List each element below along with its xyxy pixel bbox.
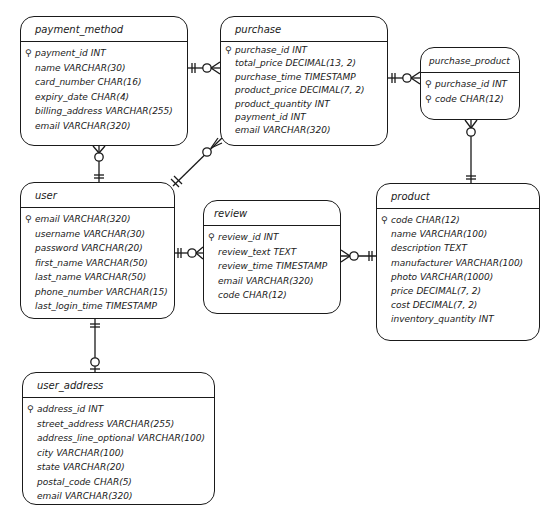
entity-review[interactable]: review ⚲review_idINT review_textTEXT rev… [203, 200, 341, 314]
rel-purchase-purchase-product [388, 72, 420, 84]
field-row: payment_idINT [225, 111, 383, 124]
field-row: ⚲payment_idINT [25, 46, 183, 61]
field-row: descriptionTEXT [381, 241, 535, 255]
entity-purchase-product[interactable]: purchase_product ⚲purchase_idINT ⚲codeCH… [420, 47, 520, 120]
field-row: manufacturerVARCHAR(100) [381, 256, 535, 270]
field-row: last_nameVARCHAR(50) [25, 270, 170, 285]
entity-title: payment_method [21, 17, 187, 42]
field-row: passwordVARCHAR(20) [25, 241, 170, 256]
field-row: last_login_timeTIMESTAMP [25, 299, 170, 314]
entity-title: purchase_product [421, 48, 519, 73]
field-row: card_numberCHAR(16) [25, 75, 183, 90]
field-row: costDECIMAL(7, 2) [381, 298, 535, 312]
field-row: phone_numberVARCHAR(15) [25, 285, 170, 300]
key-icon: ⚲ [425, 77, 432, 92]
rel-product-purchase-product [465, 120, 477, 183]
entity-purchase[interactable]: purchase ⚲purchase_idINT total_priceDECI… [220, 16, 388, 146]
field-row: ⚲emailVARCHAR(320) [25, 212, 170, 227]
field-row: billing_addressVARCHAR(255) [25, 104, 183, 119]
field-row: nameVARCHAR(30) [25, 61, 183, 76]
field-row: stateVARCHAR(20) [27, 460, 210, 475]
rel-user-review [175, 247, 203, 259]
field-row: street_addressVARCHAR(255) [27, 417, 210, 432]
entity-title: review [204, 201, 340, 226]
field-row: photoVARCHAR(1000) [381, 270, 535, 284]
key-icon: ⚲ [225, 44, 232, 57]
key-icon: ⚲ [425, 92, 432, 107]
field-row: review_textTEXT [208, 245, 336, 260]
rel-payment-method-purchase [188, 62, 220, 74]
field-row: nameVARCHAR(100) [381, 227, 535, 241]
field-row: ⚲purchase_idINT [225, 44, 383, 57]
field-row: address_line_optionalVARCHAR(100) [27, 431, 210, 446]
field-row: review_timeTIMESTAMP [208, 259, 336, 274]
field-row: cityVARCHAR(100) [27, 446, 210, 461]
rel-user-purchase [171, 138, 222, 187]
entity-title: product [377, 184, 539, 209]
field-row: product_priceDECIMAL(7, 2) [225, 84, 383, 97]
field-row: emailVARCHAR(320) [208, 274, 336, 289]
key-icon: ⚲ [25, 212, 32, 227]
key-icon: ⚲ [27, 402, 34, 417]
er-diagram-canvas: payment_method ⚲payment_idINT nameVARCHA… [0, 0, 554, 525]
key-icon: ⚲ [25, 46, 32, 61]
field-row: usernameVARCHAR(30) [25, 227, 170, 242]
entity-title: purchase [221, 17, 387, 42]
entity-user[interactable]: user ⚲emailVARCHAR(320) usernameVARCHAR(… [20, 182, 175, 319]
field-row: codeCHAR(12) [208, 288, 336, 303]
field-row: ⚲review_idINT [208, 230, 336, 245]
rel-user-payment-method [93, 146, 105, 182]
entity-product[interactable]: product ⚲codeCHAR(12) nameVARCHAR(100) d… [376, 183, 540, 341]
entity-user-address[interactable]: user_address ⚲address_idINT street_addre… [22, 372, 215, 505]
entity-payment-method[interactable]: payment_method ⚲payment_idINT nameVARCHA… [20, 16, 188, 146]
entity-title: user [21, 183, 174, 208]
field-row: emailVARCHAR(320) [25, 119, 183, 134]
field-row: ⚲purchase_idINT [425, 77, 515, 92]
field-row: inventory_quantityINT [381, 312, 535, 326]
field-row: product_quantityINT [225, 98, 383, 111]
key-icon: ⚲ [381, 213, 388, 227]
rel-product-review [341, 250, 376, 262]
field-row: expiry_dateCHAR(4) [25, 90, 183, 105]
field-row: purchase_timeTIMESTAMP [225, 71, 383, 84]
field-row: total_priceDECIMAL(13, 2) [225, 57, 383, 70]
entity-title: user_address [23, 373, 214, 398]
field-row: ⚲codeCHAR(12) [381, 213, 535, 227]
field-row: emailVARCHAR(320) [27, 489, 210, 504]
key-icon: ⚲ [208, 230, 215, 245]
field-row: priceDECIMAL(7, 2) [381, 284, 535, 298]
field-row: emailVARCHAR(320) [225, 124, 383, 137]
field-row: ⚲address_idINT [27, 402, 210, 417]
field-row: first_nameVARCHAR(50) [25, 256, 170, 271]
field-row: ⚲codeCHAR(12) [425, 92, 515, 107]
rel-user-user-address [90, 319, 100, 372]
field-row: postal_codeCHAR(5) [27, 475, 210, 490]
